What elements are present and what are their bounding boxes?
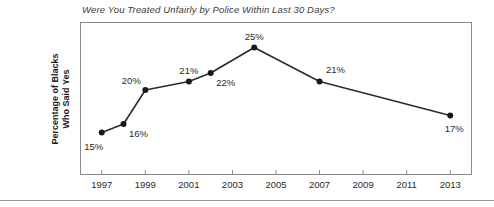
x-axis-tick-label: 2013 — [430, 179, 470, 190]
x-axis-tick-label: 2009 — [343, 179, 383, 190]
data-point-label: 15% — [74, 141, 114, 152]
data-point-marker — [317, 79, 323, 85]
x-axis-tick-label: 2005 — [256, 179, 296, 190]
x-axis-tick-label: 2001 — [169, 179, 209, 190]
y-axis-label-line-1: Percentage of Blacks — [50, 53, 60, 144]
data-point-marker — [251, 45, 257, 51]
data-point-label: 16% — [119, 128, 159, 139]
data-point-marker — [186, 79, 192, 85]
x-axis-tick-label: 1999 — [125, 179, 165, 190]
data-point-label: 17% — [434, 123, 474, 134]
x-axis-tick-label: 1997 — [82, 179, 122, 190]
data-point-label: 25% — [234, 31, 274, 42]
data-point-marker — [142, 87, 148, 93]
chart-figure: Were You Treated Unfairly by Police With… — [0, 0, 494, 207]
line-series — [99, 45, 453, 136]
y-axis-label-text: Percentage of Blacks Who Said Yes — [50, 53, 72, 144]
data-point-label: 20% — [111, 75, 151, 86]
series-line — [102, 48, 450, 133]
bottom-divider — [0, 200, 494, 201]
chart-title: Were You Treated Unfairly by Police With… — [82, 4, 335, 15]
x-axis-ticks — [102, 170, 450, 175]
data-point-label: 21% — [316, 64, 356, 75]
x-axis-tick-label: 2003 — [212, 179, 252, 190]
data-point-label: 21% — [169, 65, 209, 76]
data-point-marker — [447, 113, 453, 119]
data-point-label: 22% — [206, 77, 246, 88]
y-axis-label: Percentage of Blacks Who Said Yes — [44, 22, 78, 175]
y-axis-label-line-2: Who Said Yes — [61, 69, 71, 128]
plot-area — [80, 22, 472, 175]
x-axis-tick-label: 2007 — [300, 179, 340, 190]
data-point-marker — [99, 130, 105, 136]
x-axis-tick-label: 2011 — [387, 179, 427, 190]
data-point-marker — [121, 121, 127, 127]
